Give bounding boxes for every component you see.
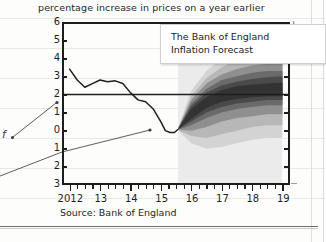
x-axis-tick-minor [184,185,185,189]
x-tick-label: 13 [95,193,106,204]
x-tick-label: 17 [216,193,227,204]
x-axis-tick-minor [244,185,245,189]
x-axis-tick-major [130,185,131,191]
x-axis-tick-minor [92,185,93,189]
x-axis-tick-minor [260,185,261,189]
y-tick-label: 1 [44,107,60,117]
chart-title-callout: The Bank of England Inflation Forecast [160,24,326,64]
x-axis-tick-minor [115,185,116,189]
x-tick-label: 18 [247,193,258,204]
x-axis-tick-minor [199,185,200,189]
x-axis-tick-minor [168,185,169,189]
x-axis-tick-minor [229,185,230,189]
x-axis-tick-minor [138,185,139,189]
y-tick-label: 2 [44,161,60,171]
x-tick-label: 2012 [58,193,82,204]
y-tick-label: 4 [44,53,60,63]
x-tick-label: 19 [277,193,288,204]
x-axis-tick-major [161,185,162,191]
y-tick-label: 0 [44,125,60,135]
y-tick-label: 3 [44,179,60,189]
x-tick-label: 16 [186,193,197,204]
x-axis-tick-minor [267,185,268,189]
y-tick-label: 2 [44,89,60,99]
callout-line-1: The Bank of England [171,31,317,44]
x-axis-tick-minor [77,185,78,189]
x-axis-tick-minor [214,185,215,189]
x-tick-label: 14 [125,193,136,204]
y-tick-label: 6 [44,17,60,27]
x-axis-tick-minor [237,185,238,189]
x-axis-tick-minor [153,185,154,189]
x-axis-tick-minor [275,185,276,189]
source-note: Source: Bank of England [60,207,176,218]
x-axis-tick-minor [85,185,86,189]
plot-border-left [62,22,64,185]
x-tick-label: 15 [155,193,166,204]
x-axis-tick-major [222,185,223,191]
x-axis-tick-major [100,185,101,191]
x-axis-tick-major [70,185,71,191]
x-axis-tick-major [191,185,192,191]
callout-line-2: Inflation Forecast [171,44,317,57]
x-axis-tick-major [282,185,283,191]
x-axis-tick-major [252,185,253,191]
x-axis-tick-minor [206,185,207,189]
x-axis-tick-minor [108,185,109,189]
x-axis-tick-minor [176,185,177,189]
y-tick-label: 1 [44,143,60,153]
x-axis-tick-minor [123,185,124,189]
x-axis-tick-minor [146,185,147,189]
y-tick-label: 5 [44,35,60,45]
y-tick-label: 3 [44,71,60,81]
y-axis-labels: 6 5 4 3 2 1 0 1 2 3 [40,22,60,185]
